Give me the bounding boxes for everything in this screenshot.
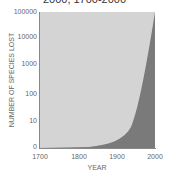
y-axis-label: NUMBER OF SPECIES LOST <box>8 33 15 128</box>
y-tick-1000: 1000 <box>21 60 37 67</box>
x-tick-1900: 1900 <box>109 153 125 160</box>
y-tick-0: 0 <box>33 143 37 150</box>
y-tick-10: 10 <box>29 117 37 124</box>
y-tick-100: 100 <box>25 90 37 97</box>
x-tick-1700: 1700 <box>32 153 48 160</box>
x-tick-2000: 2000 <box>147 153 163 160</box>
x-axis-label: YEAR <box>87 164 106 171</box>
plot-area <box>39 12 156 149</box>
y-tick-10000: 10000 <box>18 33 37 40</box>
x-tick-1800: 1800 <box>71 153 87 160</box>
chart-title: 2000, 1700-2000 <box>0 0 169 5</box>
y-tick-100000: 100000 <box>14 8 37 15</box>
